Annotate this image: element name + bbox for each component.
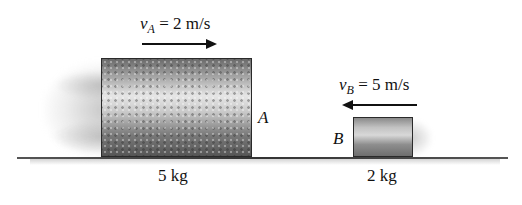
velocity-a-subscript: A <box>148 22 155 36</box>
velocity-a-label: vA = 2 m/s <box>140 15 210 35</box>
block-a-motion-blur-upper <box>54 70 104 100</box>
ground-shadow <box>30 159 500 165</box>
block-a-mass: 5 kg <box>158 167 188 184</box>
block-a-letter: A <box>258 109 268 126</box>
arrow-right-icon <box>206 39 217 49</box>
velocity-b-subscript: B <box>347 83 354 97</box>
velocity-a-value: = 2 m/s <box>155 14 210 33</box>
velocity-a-arrow-shaft <box>142 43 208 45</box>
velocity-b-arrow-shaft <box>352 104 417 106</box>
block-b <box>353 117 413 157</box>
block-b-letter: B <box>333 130 343 147</box>
block-a <box>101 58 252 157</box>
velocity-b-value: = 5 m/s <box>354 75 409 94</box>
velocity-b-symbol: v <box>339 75 347 94</box>
block-a-motion-blur-lower <box>50 120 104 154</box>
velocity-b-label: vB = 5 m/s <box>339 76 409 96</box>
velocity-a-symbol: v <box>140 14 148 33</box>
block-b-mass: 2 kg <box>367 167 397 184</box>
ground-line <box>17 157 508 159</box>
block-b-motion-blur <box>410 120 432 156</box>
